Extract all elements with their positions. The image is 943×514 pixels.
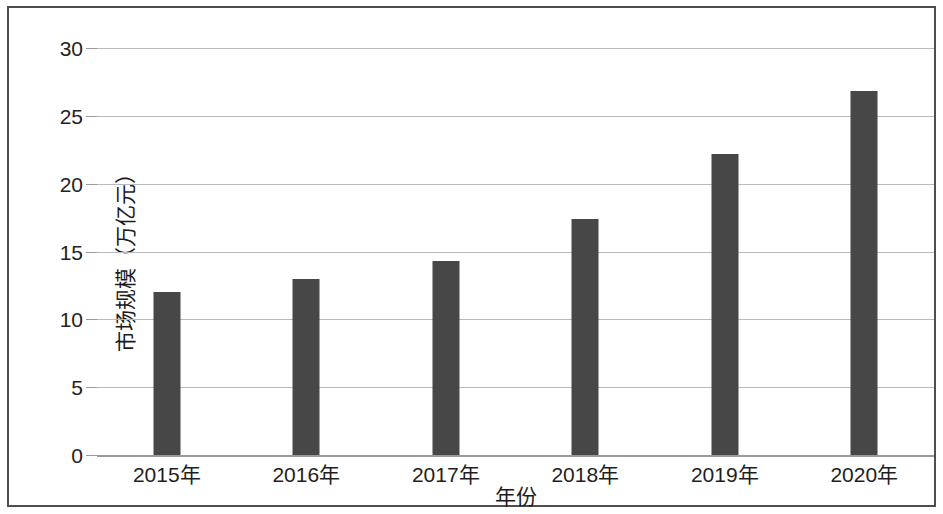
bar [711,154,738,455]
x-axis-tick-label: 2016年 [272,464,340,485]
y-axis-tick-label: 15 [60,241,83,262]
bar [432,261,459,455]
y-axis-tick-mark [86,319,97,320]
y-axis-tick-mark [86,455,97,456]
y-axis-tick-mark [86,184,97,185]
bar [851,91,878,455]
y-axis-tick-mark [86,387,97,388]
chart-page: 市场规模（万亿元） 0510152025302015年2016年2017年201… [0,0,943,514]
x-axis-tick-label: 2020年 [830,464,898,485]
y-axis-tick-label: 10 [60,309,83,330]
x-axis-tick-label: 2018年 [551,464,619,485]
gridline [97,252,934,253]
y-axis-tick-label: 5 [71,377,83,398]
y-axis-tick-mark [86,116,97,117]
bar [153,292,180,455]
x-axis-line [97,455,934,457]
plot-area: 0510152025302015年2016年2017年2018年2019年202… [97,48,934,455]
y-axis-tick-mark [86,252,97,253]
bar [293,279,320,455]
gridline [97,116,934,117]
y-axis-tick-label: 0 [71,445,83,466]
gridline [97,319,934,320]
bar [572,219,599,455]
chart-frame: 市场规模（万亿元） 0510152025302015年2016年2017年201… [7,6,936,507]
gridline [97,184,934,185]
x-axis-tick-label: 2015年 [133,464,201,485]
gridline [97,387,934,388]
y-axis-tick-label: 30 [60,38,83,59]
x-axis-tick-label: 2017年 [412,464,480,485]
y-axis-tick-mark [86,48,97,49]
gridline [97,48,934,49]
x-axis-tick-label: 2019年 [691,464,759,485]
y-axis-tick-label: 20 [60,173,83,194]
x-axis-title: 年份 [97,486,934,507]
y-axis-tick-label: 25 [60,105,83,126]
